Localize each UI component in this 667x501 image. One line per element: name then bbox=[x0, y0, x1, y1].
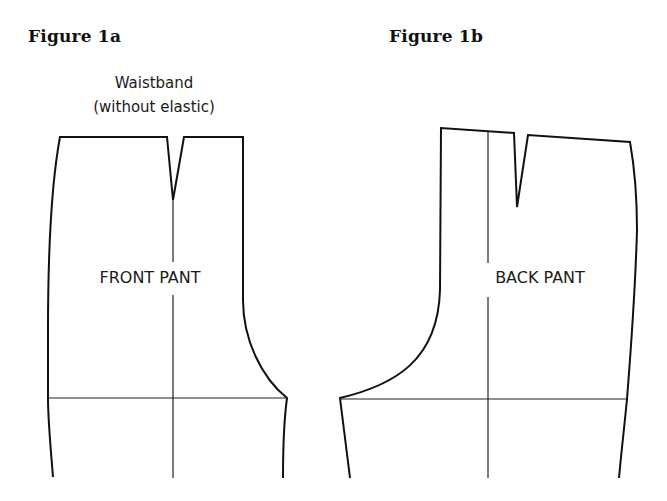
pattern-diagram bbox=[0, 0, 667, 501]
back-pant-piece bbox=[340, 128, 637, 478]
back-pant-label: BACK PANT bbox=[470, 268, 610, 287]
front-pant-outline bbox=[48, 137, 287, 478]
front-pant-label: FRONT PANT bbox=[80, 268, 220, 287]
front-pant-piece bbox=[48, 137, 287, 478]
